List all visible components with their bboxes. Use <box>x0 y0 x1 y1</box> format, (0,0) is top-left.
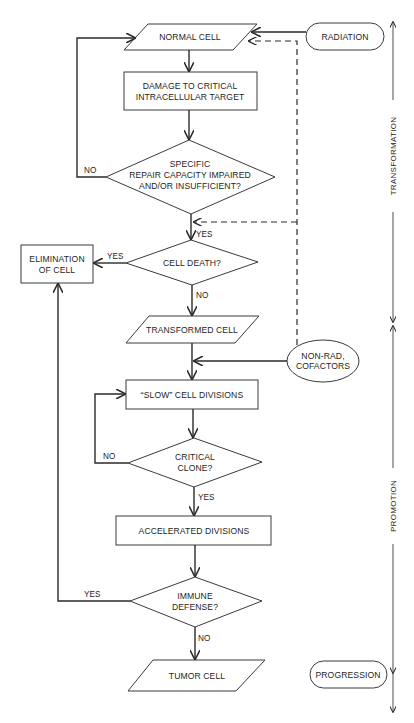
node-elimination: ELIMINATION OF CELL <box>21 245 93 283</box>
node-cell-death-decision: CELL DEATH? <box>126 240 258 285</box>
node-critical-clone-decision: CRITICAL CLONE? <box>128 438 262 487</box>
progression-label: PROGRESSION <box>315 670 380 680</box>
node-immune-decision: IMMUNE DEFENSE? <box>130 577 262 627</box>
accelerated-label: ACCELERATED DIVISIONS <box>139 526 250 536</box>
node-damage: DAMAGE TO CRITICAL INTRACELLULAR TARGET <box>124 72 257 110</box>
carcinogenesis-flowchart: NORMAL CELL DAMAGE TO CRITICAL INTRACELL… <box>0 0 414 723</box>
node-tumor-cell: TUMOR CELL <box>128 660 265 691</box>
stage-label-promotion: PROMOTION <box>389 480 398 532</box>
repair-label-line1: SPECIFIC <box>170 159 210 169</box>
normal-cell-label: NORMAL CELL <box>159 32 221 42</box>
node-transformed-cell: TRANSFORMED CELL <box>126 316 259 343</box>
critical-clone-label-line2: CLONE? <box>178 463 213 473</box>
immune-yes-label: YES <box>84 590 101 599</box>
repair-label-line2: REPAIR CAPACITY IMPAIRED <box>129 170 251 180</box>
node-non-rad-cofactors: NON-RAD, COFACTORS <box>287 340 359 382</box>
slow-divisions-label: “SLOW” CELL DIVISIONS <box>141 390 244 400</box>
node-progression: PROGRESSION <box>310 661 387 688</box>
death-yes-label: YES <box>107 252 124 261</box>
repair-yes-label: YES <box>196 230 213 239</box>
node-accelerated-divisions: ACCELERATED DIVISIONS <box>116 516 271 545</box>
stage-label-transformation: TRANSFORMATION <box>389 117 398 196</box>
non-rad-label-line1: NON-RAD, <box>301 351 344 361</box>
damage-label-line2: INTRACELLULAR TARGET <box>136 92 245 102</box>
immune-label-line2: DEFENSE? <box>172 602 218 612</box>
radiation-label: RADIATION <box>321 32 368 42</box>
node-slow-divisions: “SLOW” CELL DIVISIONS <box>126 380 258 409</box>
immune-label-line1: IMMUNE <box>177 591 213 601</box>
transformed-cell-label: TRANSFORMED CELL <box>146 325 238 335</box>
node-radiation: RADIATION <box>306 23 384 50</box>
tumor-cell-label: TUMOR CELL <box>169 671 226 681</box>
immune-no-label: NO <box>198 634 210 643</box>
cell-death-label: CELL DEATH? <box>163 258 221 268</box>
node-repair-decision: SPECIFIC REPAIR CAPACITY IMPAIRED AND/OR… <box>106 140 275 214</box>
non-rad-label-line2: COFACTORS <box>296 361 350 371</box>
repair-label-line3: AND/OR INSUFFICIENT? <box>139 181 241 191</box>
death-no-label: NO <box>196 291 208 300</box>
damage-label-line1: DAMAGE TO CRITICAL <box>143 81 238 91</box>
clone-no-label: NO <box>103 452 115 461</box>
elimination-label-line2: OF CELL <box>39 265 76 275</box>
repair-no-label: NO <box>84 166 96 175</box>
critical-clone-label-line1: CRITICAL <box>175 452 215 462</box>
connectors <box>58 32 306 659</box>
clone-yes-label: YES <box>198 493 215 502</box>
node-normal-cell: NORMAL CELL <box>124 24 257 50</box>
stage-axis: TRANSFORMATION PROMOTION <box>389 22 398 712</box>
elimination-label-line1: ELIMINATION <box>29 254 84 264</box>
